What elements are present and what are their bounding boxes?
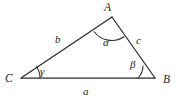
triangle-diagram-canvas: A B C a b c α β γ [0, 0, 176, 100]
angle-alpha-arc [94, 32, 124, 41]
vertex-label-B: B [163, 73, 170, 85]
angle-label-alpha: α [103, 36, 109, 48]
vertex-label-C: C [5, 72, 13, 84]
side-labels: a b c [55, 33, 141, 97]
triangle-figure: A B C a b c α β γ [0, 0, 176, 100]
angle-beta-arc [138, 66, 143, 78]
side-label-c: c [136, 34, 141, 46]
angle-label-gamma: γ [40, 65, 45, 77]
side-label-a: a [83, 85, 89, 97]
side-b-line [21, 17, 112, 78]
angle-label-beta: β [129, 58, 136, 70]
vertex-label-A: A [103, 1, 112, 13]
side-label-b: b [55, 33, 61, 45]
